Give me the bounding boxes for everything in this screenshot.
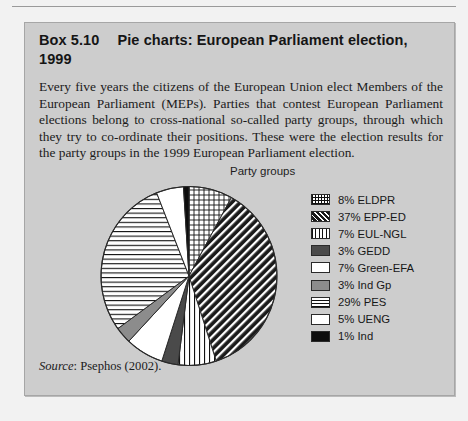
source-value: : Psephos (2002).: [74, 359, 162, 373]
legend-item: 5% UENG: [311, 311, 451, 328]
legend-item-label: 7% Green-EFA: [338, 262, 414, 274]
legend-item: 8% ELDPR: [311, 191, 451, 208]
box-heading: Box 5.10Pie charts: European Parliament …: [39, 31, 439, 69]
legend-item: 7% Green-EFA: [311, 259, 451, 276]
legend-item-label: 29% PES: [338, 296, 386, 308]
pie-slice-group: [101, 187, 277, 366]
box-body-text: Every five years the citizens of the Eur…: [39, 79, 443, 162]
chart-legend: 8% ELDPR37% EPP-ED7% EUL-NGL3% GEDD7% Gr…: [311, 191, 451, 345]
pie-chart: [99, 185, 279, 367]
legend-item-label: 5% UENG: [338, 313, 390, 325]
chart-title: Party groups: [230, 165, 295, 177]
box-heading-number: Box 5.10: [39, 32, 99, 48]
legend-swatch-icon: [311, 211, 330, 222]
legend-item: 37% EPP-ED: [311, 208, 451, 225]
pie-chart-figure: Party groups: [25, 163, 454, 348]
legend-item: 3% GEDD: [311, 242, 451, 259]
legend-swatch-icon: [311, 262, 330, 273]
page-top-rule: [12, 6, 456, 7]
legend-item-label: 7% EUL-NGL: [338, 228, 406, 240]
legend-swatch-icon: [311, 280, 330, 291]
highlight-box: Box 5.10Pie charts: European Parliament …: [24, 22, 455, 396]
legend-item: 29% PES: [311, 294, 451, 311]
legend-item-label: 3% GEDD: [338, 245, 390, 257]
legend-item-label: 3% Ind Gp: [338, 279, 391, 291]
pie-chart-svg: [99, 185, 279, 367]
legend-item-label: 8% ELDPR: [338, 194, 395, 206]
legend-item: 1% Ind: [311, 328, 451, 345]
legend-item-label: 1% Ind: [338, 330, 373, 342]
legend-swatch-icon: [311, 331, 330, 342]
source-label: Source: [39, 359, 74, 373]
legend-item: 7% EUL-NGL: [311, 225, 451, 242]
legend-item: 3% Ind Gp: [311, 276, 451, 293]
legend-item-label: 37% EPP-ED: [338, 211, 406, 223]
source-citation: Source: Psephos (2002).: [39, 359, 161, 374]
legend-swatch-icon: [311, 297, 330, 308]
legend-swatch-icon: [311, 245, 330, 256]
legend-swatch-icon: [311, 228, 330, 239]
legend-swatch-icon: [311, 194, 330, 205]
legend-swatch-icon: [311, 314, 330, 325]
page-canvas: Box 5.10Pie charts: European Parliament …: [0, 0, 468, 421]
